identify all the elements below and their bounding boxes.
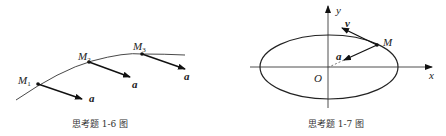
acceleration-arrow-m1 — [38, 84, 82, 99]
figure-canvas: M1 a M2 a M3 a 思考题 1-6 图 y x O M v a 思考题… — [0, 0, 446, 136]
label-a2: a — [132, 78, 138, 90]
label-v: v — [345, 17, 350, 29]
acceleration-arrow-m3 — [142, 54, 185, 69]
label-m3: M3 — [132, 40, 146, 54]
label-m: M — [382, 36, 393, 48]
label-a1: a — [89, 92, 95, 104]
label-a3: a — [184, 70, 190, 82]
label-m1: M1 — [17, 74, 31, 88]
figure-1-6: M1 a M2 a M3 a 思考题 1-6 图 — [16, 40, 190, 129]
figure-1-7: y x O M v a 思考题 1-7 图 — [250, 4, 434, 129]
caption-1-6: 思考题 1-6 图 — [72, 119, 128, 129]
x-axis-label: x — [428, 69, 434, 81]
y-axis-label: y — [335, 4, 341, 16]
caption-1-7: 思考题 1-7 图 — [308, 119, 364, 129]
acceleration-arrow-m2 — [89, 62, 130, 77]
label-a: a — [336, 50, 342, 62]
acceleration-arrow — [344, 45, 377, 60]
origin-label: O — [314, 72, 322, 84]
label-m2: M2 — [77, 50, 91, 64]
